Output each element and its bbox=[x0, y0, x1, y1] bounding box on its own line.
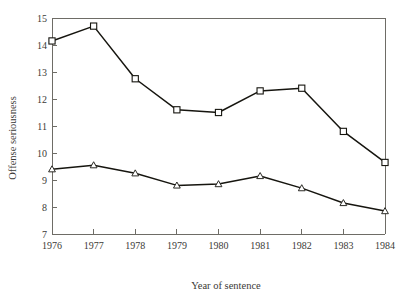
x-tick-label: 1984 bbox=[375, 240, 395, 251]
x-tick-label: 1980 bbox=[209, 240, 229, 251]
x-tick-label: 1983 bbox=[333, 240, 353, 251]
y-tick-label: 14 bbox=[37, 40, 47, 51]
y-axis-ticks: 789101112131415 bbox=[37, 13, 57, 240]
y-tick-label: 10 bbox=[37, 148, 47, 159]
data-point-square bbox=[91, 23, 97, 29]
x-axis-title: Year of sentence bbox=[191, 280, 261, 291]
x-tick-label: 1981 bbox=[250, 240, 270, 251]
chart-figure: 789101112131415 197619771978197919801981… bbox=[0, 0, 403, 296]
series-line-lower-series bbox=[52, 165, 385, 211]
data-point-square bbox=[257, 88, 263, 94]
y-tick-label: 8 bbox=[42, 202, 47, 213]
series-line-upper-series bbox=[52, 26, 385, 162]
y-tick-label: 7 bbox=[42, 229, 47, 240]
data-point-square bbox=[382, 159, 388, 165]
x-tick-label: 1976 bbox=[42, 240, 62, 251]
y-tick-label: 11 bbox=[37, 121, 47, 132]
x-tick-label: 1982 bbox=[292, 240, 312, 251]
data-point-square bbox=[132, 76, 138, 82]
chart-axes bbox=[52, 18, 385, 234]
data-point-square bbox=[215, 109, 221, 115]
data-point-triangle bbox=[257, 173, 264, 179]
y-axis-title: Offense seriousness bbox=[7, 96, 18, 180]
chart-series bbox=[49, 23, 389, 214]
axis-frame bbox=[52, 18, 385, 234]
data-point-square bbox=[299, 85, 305, 91]
data-point-square bbox=[340, 128, 346, 134]
y-tick-label: 15 bbox=[37, 13, 47, 24]
y-tick-label: 9 bbox=[42, 175, 47, 186]
data-point-square bbox=[174, 107, 180, 113]
y-tick-label: 12 bbox=[37, 94, 47, 105]
x-tick-label: 1978 bbox=[125, 240, 145, 251]
data-point-square bbox=[49, 38, 55, 44]
x-tick-label: 1979 bbox=[167, 240, 187, 251]
x-tick-label: 1977 bbox=[84, 240, 104, 251]
x-axis-ticks: 197619771978197919801981198219831984 bbox=[42, 229, 395, 251]
line-chart: 789101112131415 197619771978197919801981… bbox=[0, 0, 403, 296]
y-tick-label: 13 bbox=[37, 67, 47, 78]
